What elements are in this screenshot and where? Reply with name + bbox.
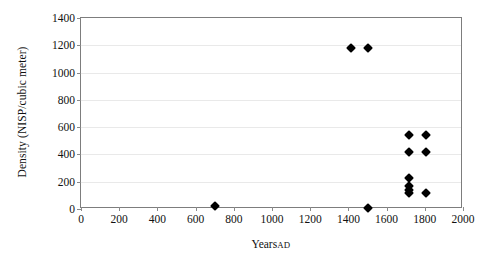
- x-tick-mark: [387, 207, 388, 211]
- y-tick-label: 400: [58, 148, 75, 160]
- data-point: [404, 130, 414, 140]
- gridline: [81, 154, 461, 155]
- y-axis-title: Density (NISP/cubic meter): [11, 12, 33, 212]
- x-axis-title-suffix: AD: [277, 240, 290, 250]
- y-tick-mark: [77, 18, 81, 19]
- x-tick-label: 1600: [375, 213, 398, 225]
- y-tick-mark: [77, 127, 81, 128]
- x-tick-mark: [310, 207, 311, 211]
- x-tick-label: 0: [78, 213, 84, 225]
- y-tick-label: 200: [58, 176, 75, 188]
- x-tick-label: 1200: [299, 213, 322, 225]
- x-tick-mark: [119, 207, 120, 211]
- gridline: [81, 100, 461, 101]
- x-tick-label: 1000: [261, 213, 284, 225]
- x-tick-mark: [196, 207, 197, 211]
- data-point: [363, 203, 373, 213]
- y-tick-mark: [77, 100, 81, 101]
- y-tick-label: 600: [58, 121, 75, 133]
- gridline: [81, 73, 461, 74]
- gridline: [81, 182, 461, 183]
- y-tick-label: 1400: [52, 12, 75, 24]
- x-tick-mark: [157, 207, 158, 211]
- x-tick-label: 800: [225, 213, 242, 225]
- data-point: [210, 201, 220, 211]
- x-tick-mark: [81, 207, 82, 211]
- y-tick-label: 0: [69, 203, 75, 215]
- x-tick-label: 200: [111, 213, 128, 225]
- x-tick-mark: [425, 207, 426, 211]
- data-point: [421, 188, 431, 198]
- x-tick-mark: [272, 207, 273, 211]
- x-tick-label: 1800: [413, 213, 436, 225]
- x-tick-label: 2000: [452, 213, 475, 225]
- y-tick-mark: [77, 154, 81, 155]
- scatter-chart-figure: Density (NISP/cubic meter) YearsAD 02004…: [0, 0, 488, 266]
- x-axis-title: YearsAD: [80, 238, 462, 250]
- y-tick-label: 800: [58, 94, 75, 106]
- x-tick-mark: [348, 207, 349, 211]
- y-tick-label: 1000: [52, 67, 75, 79]
- y-tick-mark: [77, 182, 81, 183]
- x-tick-label: 600: [187, 213, 204, 225]
- plot-area: 0200400600800100012001400 02004006008001…: [80, 17, 462, 208]
- gridline: [81, 127, 461, 128]
- y-tick-mark: [77, 73, 81, 74]
- x-tick-label: 400: [149, 213, 166, 225]
- x-axis-title-main: Years: [252, 238, 278, 250]
- data-point: [421, 130, 431, 140]
- y-tick-mark: [77, 45, 81, 46]
- x-tick-label: 1400: [337, 213, 360, 225]
- gridline: [81, 45, 461, 46]
- x-tick-mark: [234, 207, 235, 211]
- y-tick-label: 1200: [52, 39, 75, 51]
- x-tick-mark: [463, 207, 464, 211]
